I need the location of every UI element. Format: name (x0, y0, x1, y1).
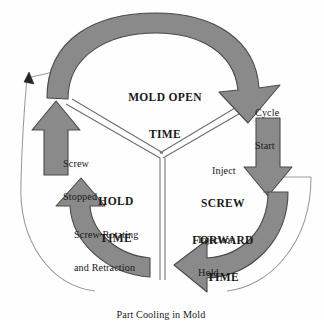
screw-stopped-line-2: Stopped (63, 191, 117, 202)
cycle-start-line-2: Start (255, 140, 303, 151)
screw-rotating-line-2: and Retraction (74, 262, 158, 273)
annotation-cycle-start: Cycle Start (255, 85, 303, 173)
injection-hold-line-2: Hold (198, 267, 256, 278)
mold-open-line-1: MOLD OPEN (118, 91, 212, 103)
screw-forward-line-1: SCREW (184, 197, 262, 209)
inject-line-1: Inject (212, 165, 254, 176)
screw-stopped-line-1: Screw (63, 158, 117, 169)
mold-open-line-2: TIME (118, 128, 212, 140)
annotation-inject: Inject (212, 143, 254, 198)
part-cooling-line-1: Part Cooling in Mold (95, 309, 227, 320)
stage-label-mold-open-time: MOLD OPEN TIME (118, 66, 212, 165)
injection-hold-line-1: Injection (198, 234, 256, 245)
cycle-start-line-1: Cycle (255, 107, 303, 118)
annotation-part-cooling-in-mold: Part Cooling in Mold (95, 287, 227, 324)
annotation-screw-rotating-and-retraction: Screw Rotating and Retraction (74, 207, 158, 295)
screw-rotating-line-1: Screw Rotating (74, 229, 158, 240)
cycle-restart-arrowhead-icon (24, 72, 34, 84)
